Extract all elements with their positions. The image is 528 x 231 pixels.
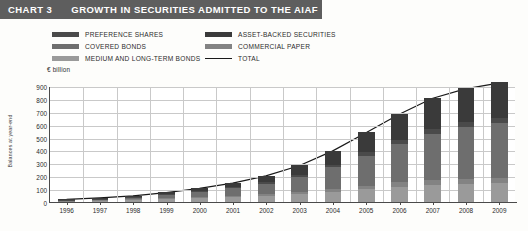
y-axis-title: Balances at year-end bbox=[7, 105, 13, 177]
bar-segment bbox=[358, 189, 375, 202]
stacked-bar bbox=[125, 86, 142, 202]
bar-segment bbox=[391, 187, 408, 202]
stacked-bar bbox=[92, 86, 109, 202]
bar-segment bbox=[158, 198, 175, 199]
bar-segment bbox=[291, 175, 308, 177]
chart-number: CHART 3 bbox=[8, 4, 52, 15]
legend-item-label: MEDIUM AND LONG-TERM BONDS bbox=[85, 55, 200, 62]
bar-segment bbox=[258, 194, 275, 196]
stacked-bar bbox=[58, 86, 75, 202]
y-tick-label: 400 bbox=[36, 148, 47, 155]
x-tick-label: 2003 bbox=[293, 207, 307, 214]
bar-segment bbox=[491, 183, 508, 202]
chart-title: GROWTH IN SECURITIES ADMITTED TO THE AIA… bbox=[71, 4, 318, 15]
x-tick-label: 2009 bbox=[492, 207, 506, 214]
bar-segment bbox=[458, 184, 475, 202]
x-tick-label: 2001 bbox=[226, 207, 240, 214]
bar-segment bbox=[225, 187, 242, 188]
bar-segment bbox=[391, 114, 408, 140]
x-gridline bbox=[183, 87, 184, 202]
stacked-bar bbox=[391, 86, 408, 202]
legend-color-swatch bbox=[205, 44, 232, 49]
legend-color-swatch bbox=[52, 56, 79, 61]
bar-segment bbox=[191, 191, 208, 192]
bar-segment bbox=[125, 197, 142, 199]
chart-legend: PREFERENCE SHARESCOVERED BONDSMEDIUM AND… bbox=[52, 29, 352, 65]
x-tick-label: 2005 bbox=[359, 207, 373, 214]
bar-segment bbox=[158, 195, 175, 198]
bar-segment bbox=[491, 123, 508, 178]
stacked-bar bbox=[325, 86, 342, 202]
stacked-bar bbox=[491, 86, 508, 202]
x-gridline bbox=[117, 87, 118, 202]
x-gridline bbox=[449, 87, 450, 202]
bar-segment bbox=[258, 176, 275, 182]
legend-column-left: PREFERENCE SHARESCOVERED BONDSMEDIUM AND… bbox=[52, 29, 200, 65]
x-gridline bbox=[250, 87, 251, 202]
bar-segment bbox=[325, 189, 342, 192]
bar-segment bbox=[158, 192, 175, 194]
bar-segment bbox=[424, 185, 441, 202]
bar-segment bbox=[92, 199, 109, 200]
x-tick-label: 2002 bbox=[259, 207, 273, 214]
x-gridline bbox=[83, 87, 84, 202]
x-tick-label: 2008 bbox=[459, 207, 473, 214]
y-tick-label: 200 bbox=[36, 174, 47, 181]
stacked-bar bbox=[258, 86, 275, 202]
y-tick-label: 500 bbox=[36, 135, 47, 142]
x-tick-label: 2006 bbox=[392, 207, 406, 214]
x-gridline bbox=[416, 87, 417, 202]
chart-title-bar: CHART 3 GROWTH IN SECURITIES ADMITTED TO… bbox=[0, 0, 322, 19]
stacked-bar bbox=[158, 86, 175, 202]
y-tick-label: 600 bbox=[36, 122, 47, 129]
x-tick-label: 1998 bbox=[126, 207, 140, 214]
bar-segment bbox=[58, 200, 75, 201]
stacked-bar bbox=[291, 86, 308, 202]
x-gridline bbox=[483, 87, 484, 202]
bar-segment bbox=[125, 196, 142, 197]
bar-segment bbox=[458, 179, 475, 184]
legend-item: COMMERCIAL PAPER bbox=[205, 41, 336, 52]
plot-area: 0100200300400500600700800900199619971998… bbox=[49, 87, 515, 203]
bar-segment bbox=[491, 82, 508, 118]
bar-segment bbox=[391, 140, 408, 144]
x-gridline bbox=[283, 87, 284, 202]
legend-color-swatch bbox=[52, 32, 79, 37]
legend-item: TOTAL bbox=[205, 53, 336, 64]
legend-column-right: ASSET-BACKED SECURITIESCOMMERCIAL PAPERT… bbox=[205, 29, 336, 65]
stacked-bar bbox=[424, 86, 441, 202]
x-gridline bbox=[150, 87, 151, 202]
x-tick-label: 2007 bbox=[426, 207, 440, 214]
legend-item-label: COMMERCIAL PAPER bbox=[238, 43, 310, 50]
bar-segment bbox=[391, 144, 408, 183]
legend-item-label: PREFERENCE SHARES bbox=[85, 31, 163, 38]
bar-segment bbox=[291, 177, 308, 192]
chart-page: CHART 3 GROWTH IN SECURITIES ADMITTED TO… bbox=[0, 0, 528, 231]
y-tick-label: 300 bbox=[36, 161, 47, 168]
x-tick-label: 2004 bbox=[326, 207, 340, 214]
bar-segment bbox=[358, 186, 375, 190]
bar-segment bbox=[325, 167, 342, 188]
legend-item: ASSET-BACKED SECURITIES bbox=[205, 29, 336, 40]
stacked-bar bbox=[225, 86, 242, 202]
legend-item: MEDIUM AND LONG-TERM BONDS bbox=[52, 53, 200, 64]
legend-color-swatch bbox=[205, 32, 232, 37]
plot-frame: 0100200300400500600700800900199619971998… bbox=[49, 87, 515, 203]
bar-segment bbox=[391, 182, 408, 186]
bar-segment bbox=[225, 196, 242, 197]
bar-segment bbox=[325, 192, 342, 202]
bar-segment bbox=[424, 129, 441, 134]
stacked-bar bbox=[358, 86, 375, 202]
x-gridline bbox=[383, 87, 384, 202]
legend-item-label: ASSET-BACKED SECURITIES bbox=[238, 31, 336, 38]
bar-segment bbox=[291, 192, 308, 194]
bar-segment bbox=[458, 127, 475, 179]
bar-segment bbox=[258, 182, 275, 183]
y-tick-label: 700 bbox=[36, 109, 47, 116]
bar-segment bbox=[92, 198, 109, 199]
stacked-bar bbox=[191, 86, 208, 202]
bar-segment bbox=[424, 98, 441, 130]
bar-segment bbox=[191, 192, 208, 197]
y-tick-label: 100 bbox=[36, 187, 47, 194]
stacked-bar bbox=[458, 86, 475, 202]
